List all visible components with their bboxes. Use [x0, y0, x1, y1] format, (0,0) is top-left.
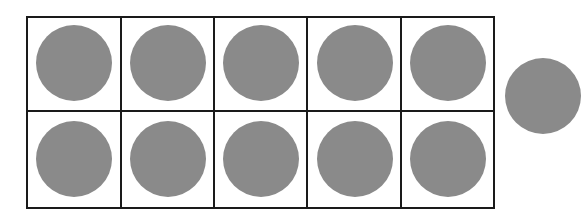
counter-circle — [317, 121, 393, 197]
counter-circle — [36, 25, 112, 101]
counter-circle — [410, 25, 486, 101]
counter-circle — [223, 25, 299, 101]
counter-circle — [36, 121, 112, 197]
counter-circle — [410, 121, 486, 197]
grid-divider-vertical — [213, 16, 215, 209]
grid-divider-vertical — [120, 16, 122, 209]
grid-divider-vertical — [400, 16, 402, 209]
grid-divider-horizontal — [26, 110, 495, 112]
grid-divider-vertical — [306, 16, 308, 209]
counter-circle — [130, 25, 206, 101]
counter-circle — [130, 121, 206, 197]
counter-circle — [317, 25, 393, 101]
counter-circle-outside-frame — [505, 58, 581, 134]
counter-circle — [223, 121, 299, 197]
